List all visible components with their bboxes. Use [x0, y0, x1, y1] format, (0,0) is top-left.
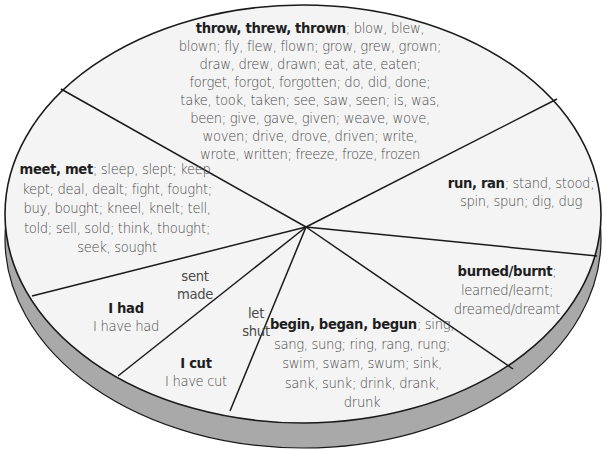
segment-line: buy, bought; kneel, knelt; tell, [12, 199, 222, 219]
segment-line: run, ran; stand, stood; [436, 175, 606, 193]
segment-line: sank, sunk; drink, drank, [262, 374, 462, 394]
segment-line: swim, swam, swum; sink, [262, 354, 462, 374]
segment-heading: I cut [180, 356, 211, 371]
segment-left: meet, met; sleep, slept; keep, kept; dea… [12, 160, 222, 258]
segment-line: spin, spun; dig, dug [436, 193, 606, 211]
segment-cut: I cut I have cut [146, 355, 246, 391]
segment-line: blown; fly, flew, flown; grow, grew, gro… [160, 38, 460, 56]
cut-examples: let shut [225, 305, 287, 341]
segment-top: throw, threw, thrown; blow, blew, blown;… [160, 20, 460, 164]
segment-line: begin, began, begun; sing, [262, 315, 462, 335]
example-word: let [225, 305, 287, 323]
segment-line: seek, sought [12, 238, 222, 258]
segment-line: forget, forgot, forgotten; do, did, done… [160, 74, 460, 92]
segment-line: I have cut [146, 373, 246, 391]
segment-line: meet, met; sleep, slept; keep, [12, 160, 222, 180]
segment-line: I have had [66, 318, 186, 336]
had-examples: sent made [160, 268, 230, 304]
segment-line: take, took, taken; see, saw, seen; is, w… [160, 92, 460, 110]
segment-line: throw, threw, thrown; blow, blew, [160, 20, 460, 38]
segment-heading: I had [108, 301, 143, 316]
segment-line: burned/burnt; [432, 262, 582, 281]
segment-line: draw, drew, drawn; eat, ate, eaten; [160, 56, 460, 74]
segment-line: drunk [262, 393, 462, 413]
segment-heading: throw, threw, thrown [196, 21, 346, 36]
segment-right: run, ran; stand, stood; spin, spun; dig,… [436, 175, 606, 211]
segment-heading: burned/burnt [458, 264, 553, 279]
segment-heading: meet, met [20, 162, 93, 177]
example-word: shut [225, 323, 287, 341]
segment-had: I had I have had [66, 300, 186, 336]
segment-line: told; sell, sold; think, thought; [12, 219, 222, 239]
example-word: made [160, 286, 230, 304]
example-word: sent [160, 268, 230, 286]
segment-line: I cut [146, 355, 246, 373]
segment-line: woven; drive, drove, driven; write, [160, 128, 460, 146]
segment-lower-right: burned/burnt; learned/learnt; dreamed/dr… [432, 262, 582, 319]
segment-line: been; give, gave, given; weave, wove, [160, 110, 460, 128]
segment-line: kept; deal, dealt; fight, fought; [12, 180, 222, 200]
segment-line: learned/learnt; [432, 281, 582, 300]
segment-heading: begin, began, begun [270, 317, 417, 332]
segment-bottom: begin, began, begun; sing, sang, sung; r… [262, 315, 462, 413]
segment-heading: run, ran [448, 176, 505, 191]
segment-line: sang, sung; ring, rang, rung; [262, 335, 462, 355]
